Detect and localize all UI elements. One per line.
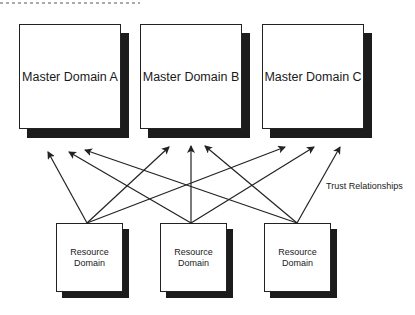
master-domain-a-label: Master Domain A — [22, 70, 118, 84]
master-domain-c-label: Master Domain C — [264, 70, 361, 84]
arrow-r2-to-a — [69, 152, 191, 223]
trust-relationships-label: Trust Relationships — [326, 181, 403, 191]
resource-domain-1-label-line1: Resource — [70, 247, 109, 258]
arrow-r3-to-b — [205, 146, 297, 223]
resource-domain-3: Resource Domain — [264, 223, 331, 292]
arrow-r1-to-a — [48, 152, 87, 223]
resource-domain-2-label-line2: Domain — [174, 258, 213, 269]
resource-domain-2: Resource Domain — [160, 223, 227, 292]
resource-domain-3-label-line2: Domain — [278, 258, 317, 269]
master-domain-c: Master Domain C — [262, 24, 364, 129]
resource-domain-1: Resource Domain — [56, 223, 123, 292]
resource-domain-2-label-line1: Resource — [174, 247, 213, 258]
master-domain-a: Master Domain A — [19, 24, 121, 129]
master-domain-b: Master Domain B — [140, 24, 242, 129]
arrow-r1-to-b — [87, 147, 169, 223]
resource-domain-3-label-line1: Resource — [278, 247, 317, 258]
master-domain-b-label: Master Domain B — [143, 70, 240, 84]
resource-domain-1-label-line2: Domain — [70, 258, 109, 269]
